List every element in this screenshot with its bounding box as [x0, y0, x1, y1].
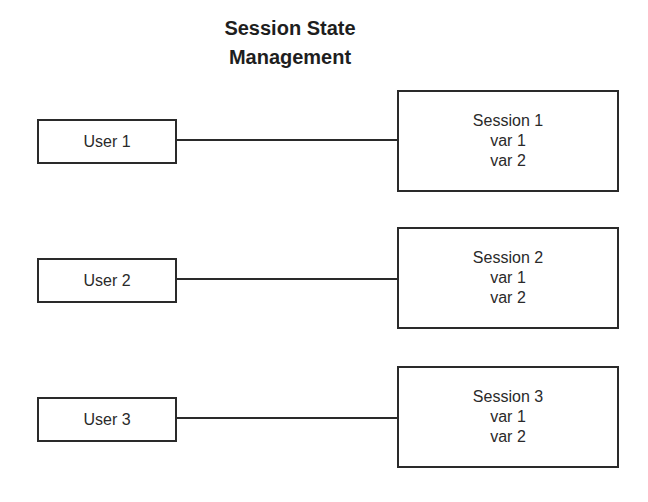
user-box-1: User 1	[37, 119, 177, 164]
session-var: var 1	[490, 268, 526, 288]
session-name: Session 2	[473, 248, 543, 268]
connector-line-1	[175, 139, 397, 141]
session-var: var 2	[490, 288, 526, 308]
user-label: User 3	[83, 411, 130, 429]
session-name: Session 1	[473, 111, 543, 131]
connector-line-3	[175, 417, 397, 419]
session-var: var 2	[490, 151, 526, 171]
user-label: User 2	[83, 272, 130, 290]
connector-line-2	[175, 278, 397, 280]
session-box-3: Session 3 var 1 var 2	[397, 366, 619, 468]
user-box-2: User 2	[37, 258, 177, 303]
session-var: var 1	[490, 407, 526, 427]
session-name: Session 3	[473, 387, 543, 407]
user-box-3: User 3	[37, 397, 177, 442]
title-line-1: Session State	[190, 14, 390, 43]
session-box-2: Session 2 var 1 var 2	[397, 227, 619, 329]
session-box-1: Session 1 var 1 var 2	[397, 90, 619, 192]
session-var: var 2	[490, 427, 526, 447]
session-var: var 1	[490, 131, 526, 151]
user-label: User 1	[83, 133, 130, 151]
title-line-2: Management	[190, 43, 390, 72]
diagram-title: Session State Management	[190, 14, 390, 72]
